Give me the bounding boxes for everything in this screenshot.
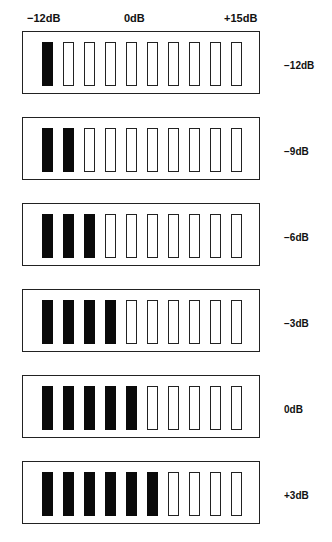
meter-segment-unlit	[210, 300, 221, 344]
meter-segment-lit	[63, 214, 74, 258]
meter-segment-lit	[84, 214, 95, 258]
meter-segment-unlit	[189, 214, 200, 258]
meter-segment-unlit	[189, 42, 200, 86]
level-label: −6dB	[284, 232, 309, 244]
level-meter	[22, 117, 260, 180]
meter-segment-lit	[147, 472, 158, 516]
meter-segment-unlit	[210, 386, 221, 430]
meter-segment-lit	[42, 214, 53, 258]
meter-segment-unlit	[63, 42, 74, 86]
meter-segment-lit	[63, 300, 74, 344]
meter-segment-lit	[42, 472, 53, 516]
scale-label-zero: 0dB	[124, 12, 145, 24]
meter-segment-lit	[105, 472, 116, 516]
meter-segment-unlit	[168, 386, 179, 430]
meter-segment-lit	[126, 386, 137, 430]
meter-segment-lit	[105, 386, 116, 430]
level-label: −3dB	[284, 318, 309, 330]
meter-segment-lit	[84, 472, 95, 516]
meter-segment-unlit	[168, 300, 179, 344]
meter-segment-lit	[105, 300, 116, 344]
level-meter	[22, 289, 260, 352]
meter-segment-unlit	[147, 128, 158, 172]
meter-segment-lit	[42, 128, 53, 172]
meter-segment-lit	[84, 300, 95, 344]
level-meter	[22, 375, 260, 438]
meter-segment-unlit	[105, 214, 116, 258]
meter-segment-unlit	[105, 42, 116, 86]
meter-segment-unlit	[147, 300, 158, 344]
meter-segment-lit	[42, 42, 53, 86]
meter-segment-unlit	[231, 214, 242, 258]
meter-segment-unlit	[189, 300, 200, 344]
meter-segment-lit	[126, 472, 137, 516]
meter-segment-lit	[63, 386, 74, 430]
meter-segment-unlit	[126, 300, 137, 344]
level-meter	[22, 31, 260, 94]
scale-label-max: +15dB	[224, 12, 257, 24]
meter-segment-unlit	[189, 472, 200, 516]
level-meter	[22, 461, 260, 524]
level-label: −12dB	[284, 60, 314, 72]
meter-segment-lit	[42, 386, 53, 430]
meter-segment-unlit	[168, 42, 179, 86]
meter-segment-unlit	[84, 128, 95, 172]
meter-segment-unlit	[126, 214, 137, 258]
meter-segment-lit	[63, 128, 74, 172]
meter-segment-unlit	[231, 300, 242, 344]
meter-segment-unlit	[189, 128, 200, 172]
meter-segment-unlit	[147, 386, 158, 430]
meter-segment-unlit	[231, 386, 242, 430]
meter-segment-unlit	[231, 472, 242, 516]
meter-segment-unlit	[105, 128, 116, 172]
meter-segment-lit	[84, 386, 95, 430]
meter-segment-unlit	[210, 472, 221, 516]
meter-segment-unlit	[168, 128, 179, 172]
level-label: 0dB	[284, 404, 303, 416]
level-label: +3dB	[284, 490, 309, 502]
meter-segment-unlit	[168, 472, 179, 516]
level-meter	[22, 203, 260, 266]
meter-segment-unlit	[168, 214, 179, 258]
meter-segment-unlit	[126, 128, 137, 172]
meter-segment-unlit	[231, 42, 242, 86]
scale-label-min: −12dB	[27, 12, 60, 24]
meter-segment-unlit	[147, 214, 158, 258]
meter-segment-unlit	[147, 42, 158, 86]
meter-segment-unlit	[126, 42, 137, 86]
meter-segment-unlit	[210, 128, 221, 172]
meter-segment-lit	[42, 300, 53, 344]
meter-segment-unlit	[210, 214, 221, 258]
meter-segment-lit	[63, 472, 74, 516]
meter-segment-unlit	[189, 386, 200, 430]
meter-segment-unlit	[231, 128, 242, 172]
meter-segment-unlit	[84, 42, 95, 86]
level-label: −9dB	[284, 146, 309, 158]
meter-segment-unlit	[210, 42, 221, 86]
